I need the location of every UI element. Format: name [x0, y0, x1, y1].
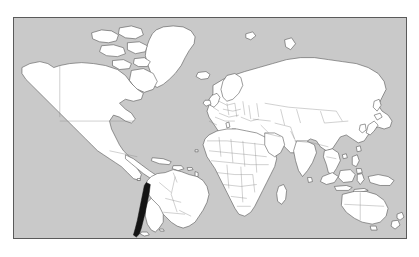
- screenshot-root: [0, 0, 419, 257]
- sardinia-corsica-island: [226, 122, 230, 128]
- philippines-islands-south: [356, 169, 362, 174]
- taiwan-island: [356, 146, 361, 152]
- cape-verde-islands: [195, 150, 198, 152]
- lesser-antilles: [195, 172, 198, 177]
- galapagos-islands: [137, 179, 140, 181]
- world-map-svg[interactable]: [14, 18, 406, 238]
- tasmania-island: [370, 226, 377, 230]
- hainan-island: [342, 154, 347, 159]
- world-map-panel[interactable]: [13, 17, 407, 239]
- falkland-islands: [159, 229, 164, 231]
- sri-lanka-island: [308, 178, 313, 183]
